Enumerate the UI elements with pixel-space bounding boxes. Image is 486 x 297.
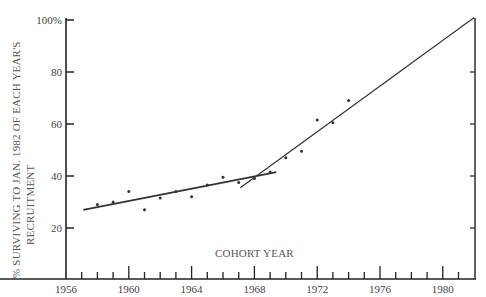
- x-tick-label: 1972: [306, 283, 328, 295]
- y-axis-title-line1: % SURVIVING TO JAN. 1982 OF EACH YEAR'S: [10, 41, 22, 278]
- x-axis-title: COHORT YEAR: [215, 247, 294, 259]
- data-point: [143, 208, 146, 211]
- survival-chart: % SURVIVING TO JAN. 1982 OF EACH YEAR'S …: [0, 0, 486, 297]
- data-point: [222, 176, 225, 179]
- x-tick-label: 1960: [118, 283, 141, 295]
- data-point: [159, 197, 162, 200]
- data-point: [96, 203, 99, 206]
- y-tick-label: 40: [51, 170, 63, 182]
- data-point: [300, 150, 303, 153]
- axes: [0, 18, 476, 279]
- late-trend-line: [240, 17, 474, 187]
- data-point: [269, 171, 272, 174]
- data-points: [96, 99, 350, 211]
- data-point: [237, 181, 240, 184]
- y-ticks: 20406080100%: [36, 14, 475, 234]
- data-point: [284, 156, 287, 159]
- data-point: [331, 121, 334, 124]
- early-trend-line: [83, 172, 276, 210]
- y-axis-title: % SURVIVING TO JAN. 1982 OF EACH YEAR'S …: [10, 41, 36, 278]
- data-point: [347, 99, 350, 102]
- trend-lines: [83, 17, 474, 209]
- data-point: [127, 190, 130, 193]
- data-point: [174, 190, 177, 193]
- y-axis-title-line2: RECRUITMENT: [24, 165, 36, 245]
- y-tick-label: 100%: [36, 14, 62, 26]
- data-point: [253, 177, 256, 180]
- x-tick-label: 1980: [432, 283, 455, 295]
- x-tick-label: 1976: [369, 283, 392, 295]
- y-tick-label: 80: [51, 66, 63, 78]
- x-tick-label: 1968: [243, 283, 266, 295]
- x-ticks: 1956196019641968197219761980: [55, 266, 459, 295]
- x-tick-label: 1956: [55, 283, 78, 295]
- y-tick-label: 60: [51, 118, 63, 130]
- y-tick-label: 20: [51, 222, 63, 234]
- data-point: [206, 184, 209, 187]
- data-point: [316, 119, 319, 122]
- x-tick-label: 1964: [181, 283, 204, 295]
- data-point: [112, 201, 115, 204]
- data-point: [190, 195, 193, 198]
